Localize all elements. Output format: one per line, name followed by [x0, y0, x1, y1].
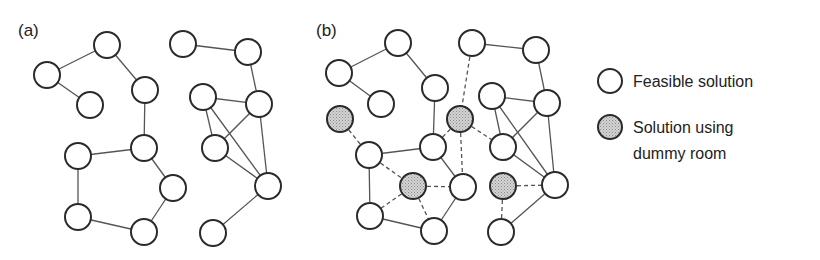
feasible-solution-node — [132, 77, 158, 103]
feasible-solution-node — [420, 134, 446, 160]
diagram-canvas: (a) (b) Feasible solutionSolution usingd… — [0, 0, 820, 260]
feasible-solution-node — [488, 219, 514, 245]
dummy-solution-node — [490, 173, 516, 199]
legend-dummy-circle-icon — [598, 115, 622, 139]
panel-b: (b) — [316, 21, 568, 245]
dummy-solution-node — [400, 173, 426, 199]
legend-label: dummy room — [633, 145, 726, 162]
feasible-solution-node — [34, 62, 60, 88]
dummy-solution-node — [327, 106, 353, 132]
feasible-solution-node — [94, 32, 120, 58]
legend-label: Solution using — [633, 119, 734, 136]
dummy-solution-node — [447, 106, 473, 132]
feasible-solution-node — [422, 75, 448, 101]
feasible-solution-node — [459, 30, 485, 56]
feasible-solution-node — [131, 219, 157, 245]
feasible-solution-node — [542, 172, 568, 198]
feasible-solution-node — [190, 84, 216, 110]
feasible-solution-node — [160, 175, 186, 201]
feasible-solution-node — [170, 31, 196, 57]
feasible-solution-node — [356, 142, 382, 168]
feasible-solution-node — [131, 135, 157, 161]
feasible-solution-node — [385, 30, 411, 56]
feasible-solution-node — [202, 135, 228, 161]
legend-feasible-circle-icon — [598, 69, 622, 93]
feasible-solution-node — [534, 90, 560, 116]
feasible-solution-node — [421, 218, 447, 244]
feasible-solution-node — [523, 37, 549, 63]
feasible-solution-node — [479, 83, 505, 109]
feasible-solution-node — [450, 174, 476, 200]
feasible-solution-node — [246, 91, 272, 117]
feasible-solution-node — [65, 204, 91, 230]
legend: Feasible solutionSolution usingdummy roo… — [598, 69, 753, 162]
panel-label-a: (a) — [18, 21, 39, 40]
feasible-solution-node — [326, 60, 352, 86]
feasible-solution-node — [490, 134, 516, 160]
feasible-solution-node — [235, 39, 261, 65]
legend-label: Feasible solution — [633, 73, 753, 90]
feasible-solution-node — [255, 173, 281, 199]
panel-label-b: (b) — [316, 21, 337, 40]
feasible-solution-node — [368, 91, 394, 117]
feasible-solution-node — [357, 203, 383, 229]
feasible-solution-node — [200, 220, 226, 246]
feasible-solution-node — [77, 92, 103, 118]
panel-a: (a) — [18, 21, 281, 246]
feasible-solution-node — [65, 143, 91, 169]
